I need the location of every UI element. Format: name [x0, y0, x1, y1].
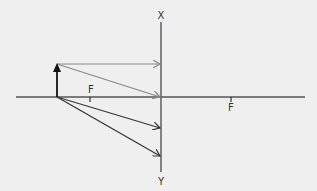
ray-diagram: X Y F F [0, 0, 317, 191]
diagram-canvas: X Y F F [0, 0, 317, 191]
focus-left-label: F [88, 84, 94, 95]
ray-center [57, 64, 160, 97]
ray-lower-2 [57, 97, 160, 156]
ray-lower-1 [57, 97, 160, 128]
lens-bottom-label: Y [157, 176, 165, 187]
focus-right-label: F [228, 102, 234, 113]
lens-top-label: X [158, 10, 165, 21]
